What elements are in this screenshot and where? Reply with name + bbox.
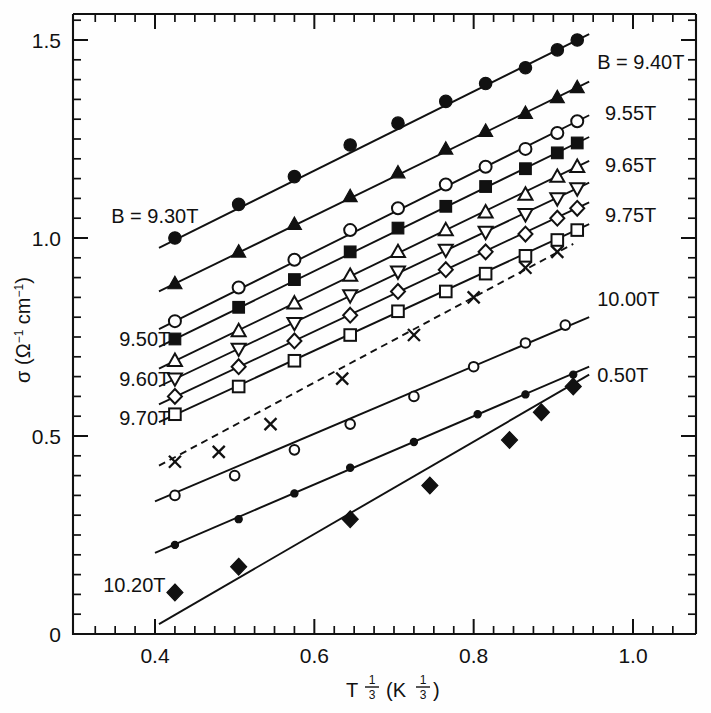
series-label-left: 9.60T bbox=[119, 368, 170, 390]
svg-text:σ (Ω−1 cm−1): σ (Ω−1 cm−1) bbox=[12, 277, 34, 383]
data-point-open-circle-small bbox=[230, 471, 240, 481]
series-label-left: 9.70T bbox=[119, 407, 170, 429]
data-point-open-triangle-up bbox=[168, 354, 182, 366]
data-point-open-circle-small bbox=[469, 362, 479, 372]
data-point-small-dot bbox=[171, 541, 178, 548]
data-point-open-square bbox=[169, 408, 181, 420]
data-point-filled-triangle-up bbox=[168, 276, 182, 288]
series-label-left: 10.20T bbox=[103, 574, 165, 596]
data-point-small-dot bbox=[235, 516, 242, 523]
x-k-exp-denominator: 3 bbox=[420, 688, 427, 702]
data-point-open-circle-small bbox=[345, 419, 355, 429]
x-tick-label: 0.8 bbox=[459, 644, 488, 667]
data-point-small-dot bbox=[474, 411, 481, 418]
series-annotations: B = 9.30T9.50T9.60T9.70T10.20TB = 9.40T9… bbox=[103, 51, 684, 596]
data-point-open-square bbox=[571, 224, 583, 236]
data-point-open-triangle-down bbox=[391, 266, 405, 278]
y-axis-title: σ (Ω−1 cm−1) bbox=[12, 277, 34, 383]
data-point-open-diamond bbox=[518, 227, 532, 242]
data-point-x-cross bbox=[265, 418, 277, 430]
series-9.50t bbox=[159, 115, 589, 329]
series-10.00t bbox=[155, 317, 589, 501]
data-point-open-diamond bbox=[287, 334, 301, 349]
data-point-filled-square bbox=[289, 274, 301, 286]
conductivity-scatter-plot: 0.40.60.81.0 00.51.01.5 B = 9.30T9.50T9.… bbox=[0, 0, 711, 713]
data-point-open-circle-small bbox=[290, 445, 300, 455]
data-point-filled-circle bbox=[440, 95, 452, 107]
data-point-filled-square bbox=[233, 302, 245, 314]
data-point-filled-circle bbox=[169, 232, 181, 244]
data-point-open-square bbox=[289, 355, 301, 367]
data-point-filled-square bbox=[552, 147, 564, 159]
y-axis-tick-labels: 00.51.01.5 bbox=[32, 29, 61, 646]
x-tick-label: 1.0 bbox=[618, 644, 647, 667]
data-point-filled-triangle-up bbox=[518, 106, 532, 118]
data-point-filled-triangle-up bbox=[570, 80, 584, 92]
series-label-right: 9.55T bbox=[605, 102, 656, 124]
data-point-filled-diamond bbox=[422, 477, 438, 494]
x-axis-kelvin-exponent-one-third: 1 3 bbox=[416, 673, 430, 702]
series-0.50t bbox=[159, 375, 589, 624]
data-point-filled-square bbox=[169, 333, 181, 345]
data-point-open-circle-small bbox=[409, 392, 419, 402]
data-point-open-circle bbox=[480, 161, 492, 173]
data-point-open-triangle-up bbox=[287, 296, 301, 308]
data-point-filled-circle bbox=[344, 139, 356, 151]
data-series-layer bbox=[155, 34, 589, 624]
y-tick-label: 1.0 bbox=[32, 227, 61, 250]
data-point-filled-diamond bbox=[342, 511, 358, 528]
y-axis-exp-1: −1 bbox=[12, 329, 26, 343]
y-axis-units-mid: cm bbox=[12, 297, 34, 329]
series-9.65t bbox=[159, 183, 589, 387]
data-point-open-diamond bbox=[232, 359, 246, 374]
axes-lines bbox=[73, 14, 696, 634]
series-label-right: 9.65T bbox=[605, 154, 656, 176]
data-point-open-diamond bbox=[439, 262, 453, 277]
x-exp-numerator: 1 bbox=[369, 673, 376, 687]
data-point-open-triangle-up bbox=[439, 223, 453, 235]
data-point-x-cross bbox=[213, 446, 225, 458]
data-point-open-circle bbox=[440, 179, 452, 191]
data-point-x-cross bbox=[551, 246, 563, 258]
data-point-open-triangle-down bbox=[439, 245, 453, 257]
data-point-filled-circle bbox=[519, 62, 531, 74]
y-tick-label: 0.5 bbox=[32, 425, 61, 448]
data-point-open-circle bbox=[571, 115, 583, 127]
series-label-right: 9.75T bbox=[605, 204, 656, 226]
data-point-filled-triangle-up bbox=[550, 90, 564, 102]
data-point-open-circle-small bbox=[170, 491, 180, 501]
plot-frame bbox=[73, 14, 696, 634]
data-point-filled-square bbox=[440, 201, 452, 213]
data-point-filled-square bbox=[571, 137, 583, 149]
x-tick-label: 0.4 bbox=[140, 644, 170, 667]
data-point-open-circle bbox=[233, 282, 245, 294]
data-point-open-diamond bbox=[168, 389, 182, 404]
data-point-small-dot bbox=[410, 438, 417, 445]
data-point-filled-diamond bbox=[502, 432, 518, 449]
data-point-open-circle-small bbox=[521, 338, 531, 348]
data-point-small-dot bbox=[570, 371, 577, 378]
data-point-filled-square bbox=[392, 222, 404, 234]
data-point-open-square bbox=[344, 329, 356, 341]
data-point-filled-circle bbox=[232, 198, 244, 210]
series-fit-line bbox=[159, 375, 589, 624]
data-point-open-diamond bbox=[343, 308, 357, 323]
x-exp-denominator: 3 bbox=[369, 688, 376, 702]
y-axis-units-open: (Ω bbox=[12, 343, 34, 365]
data-point-open-triangle-up bbox=[232, 324, 246, 336]
y-axis-ticks bbox=[73, 20, 88, 634]
data-point-open-triangle-down bbox=[343, 290, 357, 302]
data-point-x-cross bbox=[468, 291, 480, 303]
data-point-open-square bbox=[552, 234, 564, 246]
series-label-left: B = 9.30T bbox=[111, 205, 198, 227]
series-label-left: 9.50T bbox=[119, 328, 170, 350]
data-point-open-triangle-down bbox=[232, 344, 246, 356]
data-point-filled-triangle-up bbox=[439, 142, 453, 154]
x-axis-base-T: T bbox=[346, 679, 358, 701]
data-point-open-diamond bbox=[550, 211, 564, 226]
data-point-open-triangle-up bbox=[550, 169, 564, 181]
data-point-filled-diamond bbox=[167, 584, 183, 601]
data-point-filled-circle bbox=[551, 44, 563, 56]
right-axis-ticks bbox=[681, 20, 696, 634]
data-point-open-circle bbox=[169, 315, 181, 327]
